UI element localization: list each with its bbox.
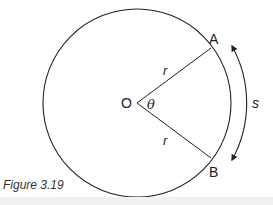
radius-label-upper: r [163, 63, 168, 78]
angle-label: θ [147, 97, 155, 112]
arc-length-label: s [252, 95, 259, 111]
bottom-strip [0, 197, 273, 205]
radius-oa [137, 48, 211, 103]
radius-label-lower: r [163, 133, 168, 148]
arc-length-arrow [232, 46, 247, 160]
point-a-label: A [209, 31, 219, 47]
figure-3-19-diagram: A B O θ r r s Figure 3.19 [0, 0, 273, 205]
point-b-label: B [209, 164, 218, 180]
figure-caption: Figure 3.19 [3, 178, 64, 192]
circle-sector-diagram: A B O θ r r s [0, 0, 273, 205]
center-label: O [121, 95, 132, 111]
